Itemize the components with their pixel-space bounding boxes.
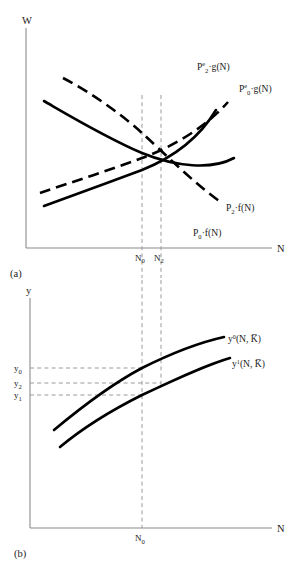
label-p0-f-n-tail: ·f(N) <box>202 227 222 239</box>
figure-container: W N N0 N2 Pe2·g(N) Pe0·g(N) P2·f( <box>0 0 301 574</box>
panel-b: y N y0 y2 y1 N0 y0(N, K̅) y1(N, K̅) <box>14 280 285 560</box>
panel-b-tick-n0-sub: 0 <box>142 538 146 545</box>
svg-text:N2: N2 <box>154 253 164 264</box>
label-y0-n-kbar-tail: (N, K̅) <box>236 333 261 345</box>
svg-text:N0: N0 <box>135 253 146 264</box>
panel-a-x-axis-label: N <box>277 243 285 254</box>
panel-b-tick-y2-sub: 2 <box>19 383 22 390</box>
panel-b-y-axis-label: y <box>26 285 32 296</box>
label-p2e-g-n: Pe2·g(N) <box>197 60 230 73</box>
curve-y1-n-kbar <box>60 358 230 447</box>
panel-b-label: (b) <box>14 548 27 560</box>
panel-a-tick-n0: N0 <box>135 253 146 264</box>
label-p2-f-n-tail: ·f(N) <box>235 202 255 214</box>
label-p0-f-n: P0·f(N) <box>193 227 221 240</box>
panel-a-tick-n2: N2 <box>154 253 164 264</box>
panel-b-tick-y2: y2 <box>14 378 22 390</box>
economics-diagram: W N N0 N2 Pe2·g(N) Pe0·g(N) P2·f( <box>0 0 301 574</box>
panel-b-x-axis-label: N <box>277 523 285 534</box>
label-y1-n-kbar: y1(N, K̅) <box>232 358 265 370</box>
label-p0e-g-n: Pe0·g(N) <box>239 82 272 95</box>
panel-b-tick-y0: y0 <box>14 363 23 375</box>
panel-a: W N N0 N2 Pe2·g(N) Pe0·g(N) P2·f( <box>10 15 285 280</box>
panel-a-label: (a) <box>10 268 22 280</box>
panel-b-tick-y1: y1 <box>14 390 22 402</box>
label-y0-n-kbar: y0(N, K̅) <box>228 333 261 345</box>
label-y1-n-kbar-tail: (N, K̅) <box>240 358 265 370</box>
panel-b-tick-n0: N0 <box>135 533 146 545</box>
label-p2-f-n: P2·f(N) <box>226 202 254 215</box>
curve-p0e-g-n <box>44 101 234 165</box>
panel-b-tick-y0-sub: 0 <box>19 368 23 375</box>
panel-a-y-axis-label: W <box>22 15 32 26</box>
panel-a-tick-n2-sub: 2 <box>161 257 164 264</box>
label-p0e-g-n-tail: ·g(N) <box>250 83 271 95</box>
panel-b-tick-y1-sub: 1 <box>19 395 22 402</box>
label-p2e-g-n-tail: ·g(N) <box>208 61 229 73</box>
panel-a-tick-n0-sub: 0 <box>142 257 146 264</box>
curve-p0-f-n <box>44 110 216 206</box>
